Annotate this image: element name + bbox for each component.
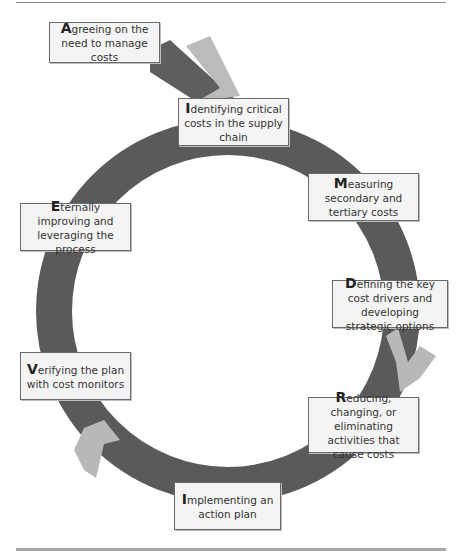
step-initial: A [61, 20, 72, 36]
step-identifying: Identifying critical costs in the supply… [178, 98, 289, 146]
step-text: erifying the plan with cost monitors [27, 364, 124, 390]
step-initial: M [334, 175, 348, 191]
step-eternally: Eternally improving and leveraging the p… [20, 203, 131, 251]
step-measuring: Measuring secondary and tertiary costs [308, 173, 419, 221]
step-text: greeing on the need to manage costs [61, 23, 148, 63]
step-text: ternally improving and leveraging the pr… [37, 201, 113, 255]
bottom-rule [16, 548, 446, 551]
step-text: dentifying critical costs in the supply … [184, 103, 283, 143]
step-reducing: Reducing, changing, or eliminating activ… [308, 397, 419, 453]
step-text: efining the key cost drivers and develop… [346, 278, 435, 332]
step-implementing: Implementing an action plan [174, 482, 281, 530]
step-initial: D [345, 275, 357, 291]
step-defining: Defining the key cost drivers and develo… [332, 280, 448, 328]
step-verifying: Verifying the plan with cost monitors [20, 352, 131, 400]
step-text: mplementing an action plan [187, 494, 273, 520]
step-agreeing: Agreeing on the need to manage costs [49, 22, 160, 63]
step-initial: R [336, 389, 347, 405]
step-initial: E [51, 198, 61, 214]
step-initial: V [27, 361, 38, 377]
